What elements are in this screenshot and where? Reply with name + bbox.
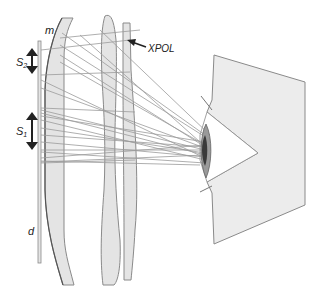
lens-1 [45,18,74,285]
label-xpol: XPOL [147,43,175,54]
label-s1: S1 [16,125,27,138]
label-m: m [45,24,54,36]
optical-diagram: m XPOL S2 S1 d [0,0,320,298]
label-s2: S2 [16,56,27,69]
label-d: d [28,225,35,237]
s2-range-arrow [26,48,38,74]
face-silhouette [200,55,305,244]
s1-range-arrow [26,112,38,150]
display-panel [38,41,41,263]
